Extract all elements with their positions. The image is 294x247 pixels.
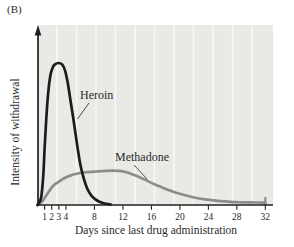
x-tick-label: 32 — [261, 212, 271, 222]
heroin-label: Heroin — [80, 88, 113, 102]
x-tick-label: 28 — [232, 212, 242, 222]
x-tick-label: 24 — [204, 212, 214, 222]
x-tick-label: 16 — [147, 212, 157, 222]
x-tick-label: 2 — [49, 212, 54, 222]
withdrawal-intensity-figure: (B) 12348121620242832 Intensity of withd… — [0, 0, 294, 247]
chart-canvas: (B) 12348121620242832 Intensity of withd… — [0, 0, 294, 247]
methadone-label: Methadone — [115, 150, 169, 164]
y-axis-label: Intensity of withdrawal — [9, 78, 22, 185]
x-axis-label: Days since last drug administration — [75, 224, 237, 237]
x-tick-marks — [45, 206, 266, 210]
x-tick-label: 1 — [42, 212, 47, 222]
x-tick-label: 4 — [64, 212, 69, 222]
x-tick-label: 12 — [118, 212, 128, 222]
x-tick-label: 3 — [56, 212, 61, 222]
x-tick-label: 20 — [175, 212, 185, 222]
x-tick-label: 8 — [92, 212, 97, 222]
panel-label: (B) — [7, 3, 22, 16]
x-tick-labels: 12348121620242832 — [42, 212, 270, 222]
